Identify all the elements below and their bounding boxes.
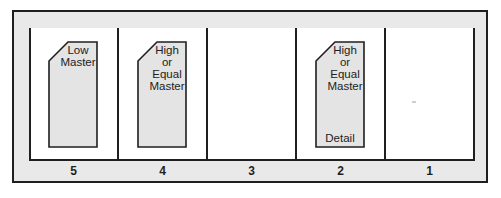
card-line: Equal [149,68,185,80]
pocket-label-4: 4 [118,161,207,181]
card-line: or [149,56,185,68]
card-line: or [327,56,363,68]
pocket-divider-4-3 [206,28,208,161]
card-high-or-equal-master-detail: High or Equal Master Detail [315,41,365,148]
card-line: Master [327,80,363,92]
card-line: Master [149,80,185,92]
pocket-divider-5-4 [117,28,119,161]
card-line: Master [60,56,96,68]
card-text: Low Master [60,44,96,68]
pocket-label-1: 1 [385,161,474,181]
paper-speck [412,101,416,103]
card-low-master: Low Master [48,41,98,148]
card-line: High [327,44,363,56]
card-high-or-equal-master: High or Equal Master [137,41,187,148]
pocket-left-wall [29,28,31,161]
card-line: Low [60,44,96,56]
pocket-label-3: 3 [207,161,296,181]
card-line: High [149,44,185,56]
pocket-divider-3-2 [295,28,297,161]
pocket-right-wall [473,28,475,161]
pocket-label-5: 5 [29,161,118,181]
pocket-label-2: 2 [296,161,385,181]
pocket-divider-2-1 [384,28,386,161]
card-text: High or Equal Master [149,44,185,92]
card-detail-label: Detail [315,132,365,144]
card-text: High or Equal Master [327,44,363,92]
card-line: Equal [327,68,363,80]
